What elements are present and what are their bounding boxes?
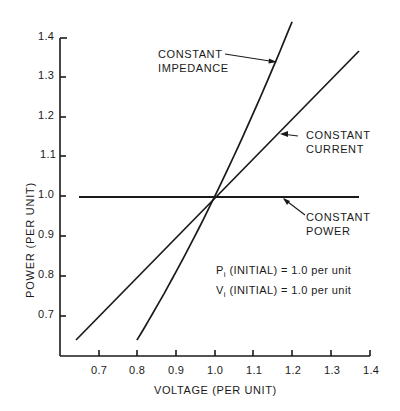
x-ticks	[99, 350, 370, 356]
annotation-symbol: P	[216, 264, 224, 276]
y-tick-label: 0.7	[38, 308, 54, 320]
label-line: CONSTANT	[306, 128, 370, 142]
y-tick-label: 0.8	[38, 268, 54, 280]
x-tick-label: 0.8	[129, 364, 145, 376]
x-tick-label: 1.2	[285, 364, 301, 376]
y-tick-label: 1.3	[38, 69, 54, 81]
label-constant-power: CONSTANT POWER	[306, 210, 370, 238]
label-constant-current: CONSTANT CURRENT	[306, 128, 370, 156]
y-tick-label: 1.4	[38, 30, 54, 42]
y-tick-label: 1.0	[38, 188, 54, 200]
y-tick-label: 0.9	[38, 228, 54, 240]
y-tick-label: 1.2	[38, 109, 54, 121]
annotation-text: (INITIAL) = 1.0 per unit	[226, 264, 351, 276]
annotation-initial-voltage: Vi (INITIAL) = 1.0 per unit	[216, 284, 351, 299]
x-axis-title: VOLTAGE (PER UNIT)	[154, 383, 277, 397]
x-tick-label: 1.4	[363, 364, 379, 376]
y-tick-label: 1.1	[40, 148, 56, 160]
annotation-text: (INITIAL) = 1.0 per unit	[226, 284, 351, 296]
arrow-constant-impedance	[225, 54, 276, 62]
x-tick-label: 0.7	[91, 364, 107, 376]
y-axis-title: POWER (PER UNIT)	[24, 182, 36, 298]
label-line: CONSTANT	[306, 210, 370, 224]
y-ticks	[60, 77, 66, 316]
x-tick-label: 0.9	[168, 364, 184, 376]
label-line: POWER	[306, 224, 370, 238]
x-tick-label: 1.0	[207, 364, 223, 376]
x-tick-label: 1.3	[324, 364, 340, 376]
label-constant-impedance: CONSTANT IMPEDANCE	[158, 47, 229, 75]
label-line: CURRENT	[306, 142, 370, 156]
label-line: CONSTANT	[158, 47, 229, 61]
annotation-initial-power: Pi (INITIAL) = 1.0 per unit	[216, 264, 351, 279]
label-line: IMPEDANCE	[158, 61, 229, 75]
x-tick-label: 1.1	[246, 364, 262, 376]
annotation-symbol: V	[216, 284, 224, 296]
